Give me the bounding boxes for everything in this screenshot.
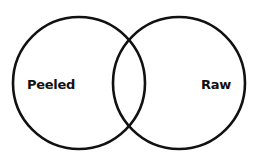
set-label-raw: Raw — [201, 77, 231, 92]
set-label-peeled: Peeled — [27, 77, 75, 92]
